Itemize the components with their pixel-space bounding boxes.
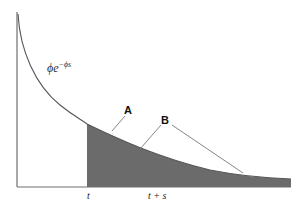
annotation-b: B bbox=[161, 114, 169, 126]
annotation-a: A bbox=[124, 104, 132, 116]
leader-line-a bbox=[112, 116, 125, 131]
tick-label-t: t bbox=[87, 190, 90, 201]
curve-formula: ϕe−ϕs bbox=[47, 60, 71, 75]
decay-diagram: ϕe−ϕs A B t t + s bbox=[0, 0, 301, 203]
tick-label-t-plus-s: t + s bbox=[148, 190, 167, 201]
leader-line-b1 bbox=[140, 125, 161, 149]
